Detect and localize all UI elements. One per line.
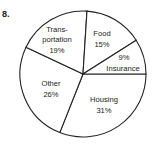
svg-text:15%: 15%	[94, 40, 109, 49]
svg-text:Other: Other	[42, 79, 61, 88]
svg-text:19%: 19%	[49, 46, 64, 55]
svg-text:Food: Food	[93, 29, 110, 38]
pie-slices	[20, 11, 146, 137]
svg-text:portation: portation	[42, 35, 72, 44]
svg-text:Housing: Housing	[90, 95, 118, 104]
svg-text:26%: 26%	[43, 90, 58, 99]
svg-text:9%: 9%	[119, 53, 130, 62]
svg-text:Trans-: Trans-	[46, 25, 68, 34]
svg-text:Insurance: Insurance	[106, 64, 139, 73]
svg-text:31%: 31%	[96, 106, 111, 115]
pie-chart: Trans- portation 19% Food 15% 9% Insuran…	[0, 0, 153, 149]
